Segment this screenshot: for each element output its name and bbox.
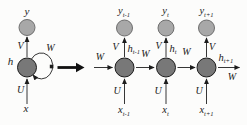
output-node-t-1 — [117, 20, 133, 36]
output-label-t-1: yt-1 — [117, 5, 130, 18]
folded-v-weight-label: V — [17, 40, 25, 51]
hidden-label-t: ht — [170, 43, 177, 55]
self-loop-square-marker — [50, 65, 54, 69]
folded-u-weight-label: U — [17, 84, 25, 95]
hidden-node-t — [157, 58, 176, 77]
w-label-outgoing: W — [228, 71, 238, 82]
column-t1: yt+1 V ht+1 U xt+1 — [195, 5, 233, 117]
u-label-t: U — [154, 85, 162, 96]
output-label-t1: yt+1 — [198, 5, 213, 18]
rnn-unfold-diagram: y V W h U x W yt-1 V ht-1 — [0, 0, 247, 125]
input-label-t: xt — [161, 104, 169, 117]
column-t: yt V ht U xt — [154, 5, 176, 117]
folded-hidden-label: h — [8, 55, 14, 67]
unfold-arrow — [58, 63, 85, 73]
folded-output-node — [19, 20, 35, 36]
unrolled-rnn: W yt-1 V ht-1 U xt-1 W yt — [94, 5, 240, 117]
folded-rnn: y V W h U x — [8, 5, 57, 114]
w-label-incoming: W — [96, 51, 106, 62]
hidden-label-t-1: ht-1 — [128, 43, 140, 55]
input-label-t1: xt+1 — [198, 104, 213, 117]
output-node-t — [158, 20, 174, 36]
folded-input-label: x — [23, 102, 29, 114]
w-label-t-1-to-t: W — [141, 48, 151, 59]
v-label-t: V — [155, 40, 163, 51]
folded-hidden-node — [18, 58, 37, 77]
hidden-node-t-1 — [115, 58, 134, 77]
u-label-t1: U — [195, 85, 203, 96]
v-label-t-1: V — [112, 41, 120, 52]
diagram-canvas: y V W h U x W yt-1 V ht-1 — [0, 0, 247, 125]
folded-output-label: y — [24, 5, 30, 17]
v-label-t1: V — [209, 41, 217, 52]
folded-w-weight-label: W — [46, 42, 56, 53]
w-label-t-to-t1: W — [182, 46, 192, 57]
hidden-node-t1 — [197, 58, 216, 77]
column-t-1: yt-1 V ht-1 U xt-1 — [112, 5, 140, 117]
input-label-t-1: xt-1 — [117, 104, 130, 117]
output-node-t1 — [199, 20, 215, 36]
unfold-arrow-head — [76, 63, 85, 73]
output-label-t: yt — [161, 5, 169, 18]
hidden-label-t1: ht+1 — [219, 52, 234, 64]
u-label-t-1: U — [113, 85, 121, 96]
